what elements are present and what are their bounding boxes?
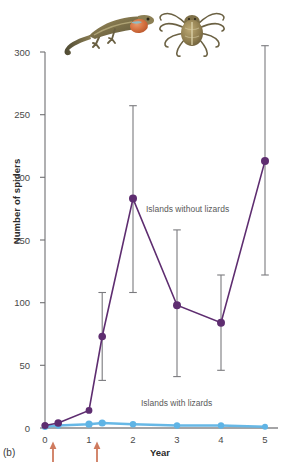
lizard-introduction-arrow: [94, 442, 101, 463]
series-islands-without-lizards: [41, 46, 269, 429]
data-point: [85, 421, 92, 428]
data-point: [130, 421, 136, 427]
data-point: [174, 422, 180, 428]
y-axis-ticks: [40, 52, 45, 428]
data-points: [41, 157, 269, 429]
spider-population-chart: Number of spiders 300 250 200 150 100 50…: [0, 0, 292, 468]
data-point: [218, 422, 224, 428]
error-bars: [98, 46, 268, 381]
data-point: [99, 419, 106, 426]
lizard-introduction-arrow: [50, 442, 57, 463]
lizard-introduction-arrows: [50, 442, 101, 463]
data-point: [262, 424, 268, 430]
